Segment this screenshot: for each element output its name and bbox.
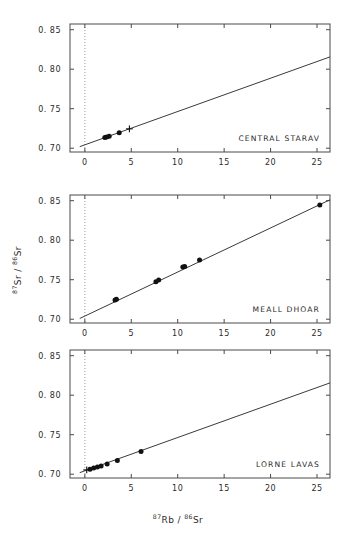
y-tick-label: 0. 70 [38,144,61,153]
data-point [317,202,322,207]
y-tick-label: 0. 80 [38,391,61,400]
x-axis-superscript-87: 87 [153,513,162,520]
x-tick-label: 5 [128,158,134,166]
panel-lorne-lavas: 05101520250. 700. 750. 800. 85LORNE LAVA… [0,340,356,492]
data-point [99,464,104,469]
panel-title: LORNE LAVAS [256,460,320,469]
data-point [107,134,112,139]
x-axis-superscript-86: 86 [184,513,193,520]
data-point [117,130,122,135]
data-point-cross [126,125,133,132]
y-axis-superscript-86: 86 [11,256,18,265]
y-tick-label: 0. 85 [38,197,61,206]
y-axis-separator: / [13,265,23,275]
panel-title: MEALL DHOAR [253,305,320,314]
data-point [105,462,110,467]
y-tick-label: 0. 85 [38,26,61,35]
plot-area-2: 05101520250. 700. 750. 800. 85LORNE LAVA… [0,340,356,492]
x-tick-label: 20 [265,158,276,166]
y-tick-label: 0. 70 [38,315,61,324]
data-point [139,449,144,454]
y-axis-superscript-87: 87 [11,285,18,294]
x-tick-label: 10 [172,484,183,492]
data-point [115,458,120,463]
x-tick-label: 25 [311,484,322,492]
panel-title: CENTRAL STARAV [238,134,320,143]
x-tick-label: 5 [128,329,134,337]
x-axis-separator: / [174,515,184,525]
x-tick-label: 25 [311,158,322,166]
y-tick-label: 0. 80 [38,236,61,245]
y-tick-label: 0. 70 [38,470,61,479]
plot-area-0: 05101520250. 700. 750. 800. 85CENTRAL ST… [0,14,356,166]
isochron-figure: 05101520250. 700. 750. 800. 85CENTRAL ST… [0,0,356,543]
x-tick-label: 0 [82,158,88,166]
data-point [182,264,187,269]
y-tick-label: 0. 75 [38,276,61,285]
y-axis-base-sr-2: Sr [13,246,23,256]
plot-frame [70,350,330,478]
plot-frame [70,24,330,152]
plot-area-1: 05101520250. 700. 750. 800. 85MEALL DHOA… [0,185,356,337]
x-axis-base-rb: Rb [162,515,175,525]
x-tick-label: 15 [219,484,230,492]
x-tick-label: 25 [311,329,322,337]
x-tick-label: 0 [82,329,88,337]
x-axis-label: 87Rb / 86Sr [0,508,356,527]
x-tick-label: 10 [172,329,183,337]
x-tick-label: 15 [219,158,230,166]
panel-meall-dhoar: 05101520250. 700. 750. 800. 85MEALL DHOA… [0,185,356,337]
x-tick-label: 15 [219,329,230,337]
data-point [197,258,202,263]
y-tick-label: 0. 75 [38,431,61,440]
data-point [156,277,161,282]
x-axis-base-sr: Sr [193,515,203,525]
x-tick-label: 5 [128,484,134,492]
x-tick-label: 0 [82,484,88,492]
x-tick-label: 20 [265,329,276,337]
y-axis-base-sr: Sr [13,275,23,285]
x-tick-label: 20 [265,484,276,492]
y-tick-label: 0. 75 [38,105,61,114]
y-tick-label: 0. 80 [38,65,61,74]
y-tick-label: 0. 85 [38,352,61,361]
y-axis-label: 87Sr / 86Sr [2,200,32,340]
panel-central-starav: 05101520250. 700. 750. 800. 85CENTRAL ST… [0,14,356,166]
x-tick-label: 10 [172,158,183,166]
data-point [114,297,119,302]
